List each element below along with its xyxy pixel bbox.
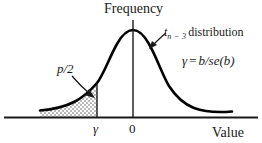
curve-name-subscript: n − 3 (167, 32, 186, 41)
p2-arrow (72, 76, 90, 94)
y-axis-label: Frequency (104, 2, 163, 16)
curve-name-suffix: distribution (186, 25, 243, 39)
formula-rhs: b/se(b) (198, 53, 234, 68)
t-distribution-figure: Frequency Value γ 0 p/2 tn − 3distributi… (0, 0, 262, 143)
x-axis-label: Value (212, 126, 244, 140)
formula-equals-sign: = (187, 53, 198, 68)
formula-label: γ=b/se(b) (182, 54, 235, 67)
x-tick-label-zero: 0 (129, 122, 136, 135)
x-tick-label-gamma: γ (93, 122, 98, 135)
curve-name-label: tn − 3distribution (164, 26, 244, 41)
tail-area-label: p/2 (57, 62, 74, 75)
tail-shaded-region (40, 83, 97, 117)
